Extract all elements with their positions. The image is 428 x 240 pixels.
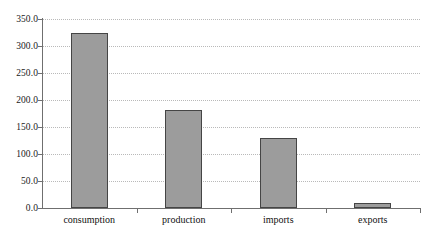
bar-exports <box>354 203 391 208</box>
x-axis-tick-mark <box>231 208 232 213</box>
plot-area <box>42 19 420 208</box>
category-label-consumption: consumption <box>63 214 115 225</box>
x-axis-tick-mark <box>137 208 138 213</box>
category-label-imports: imports <box>263 214 294 225</box>
bar-imports <box>260 138 297 208</box>
x-axis-tick-mark-end <box>420 208 421 213</box>
x-axis-tick-mark <box>326 208 327 213</box>
category-label-exports: exports <box>358 214 387 225</box>
y-axis-tick-label: 150.0 <box>0 122 38 132</box>
y-axis-tick-label: 350.0 <box>0 14 38 24</box>
bar-chart: 0.050.0100.0150.0200.0250.0300.0350.0 co… <box>0 0 428 240</box>
category-label-production: production <box>162 214 205 225</box>
bar-production <box>165 110 202 208</box>
y-axis-tick-label: 200.0 <box>0 95 38 105</box>
bar-consumption <box>71 33 108 209</box>
y-axis-tick-label: 250.0 <box>0 68 38 78</box>
y-axis-tick-label: 50.0 <box>0 176 38 186</box>
y-axis-tick-label: 0.0 <box>0 203 38 213</box>
y-axis-tick-label: 300.0 <box>0 41 38 51</box>
y-axis-tick-label: 100.0 <box>0 149 38 159</box>
